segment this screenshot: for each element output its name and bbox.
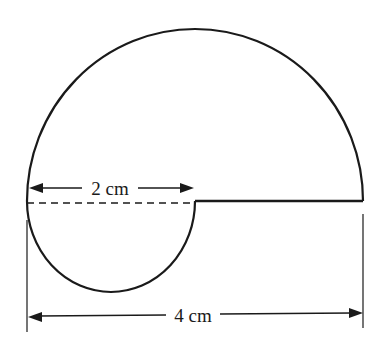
dimension-line-4cm-right (220, 313, 352, 314)
small-semicircle-arc (27, 201, 195, 292)
dimension-4cm: 4 cm (28, 305, 363, 326)
dimension-2cm: 2 cm (29, 178, 194, 199)
dimension-label-2cm: 2 cm (91, 178, 129, 199)
compound-semicircle-diagram: 2 cm 4 cm (0, 0, 383, 350)
arrowhead-left-icon (28, 312, 42, 322)
arrowhead-left-icon (29, 183, 43, 193)
arrowhead-right-icon (349, 308, 363, 318)
large-semicircle-arc (27, 29, 363, 201)
arrowhead-right-icon (180, 183, 194, 193)
dimension-line-4cm-left (38, 315, 166, 316)
dimension-label-4cm: 4 cm (174, 305, 212, 326)
